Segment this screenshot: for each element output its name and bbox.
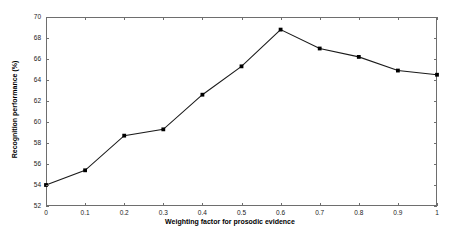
y-tick-label: 62 — [14, 97, 41, 104]
x-tick-label: 0.3 — [148, 209, 178, 216]
y-axis-label: Recognition performance (%) — [11, 40, 18, 180]
y-tick-mark — [46, 185, 49, 186]
y-tick-label: 58 — [14, 139, 41, 146]
y-tick-mark — [434, 80, 437, 81]
x-tick-mark — [437, 203, 438, 206]
x-tick-label: 0 — [31, 209, 61, 216]
x-tick-mark — [320, 17, 321, 20]
x-tick-mark — [163, 17, 164, 20]
x-tick-mark — [124, 17, 125, 20]
x-tick-mark — [85, 17, 86, 20]
x-tick-mark — [359, 17, 360, 20]
chart-figure: 52545658606264666870 00.10.20.30.40.50.6… — [0, 0, 460, 236]
x-tick-mark — [359, 203, 360, 206]
y-tick-mark — [46, 164, 49, 165]
y-tick-label: 64 — [14, 76, 41, 83]
x-tick-label: 0.9 — [383, 209, 413, 216]
x-tick-mark — [398, 203, 399, 206]
x-tick-label: 0.6 — [266, 209, 296, 216]
plot-area — [46, 17, 437, 206]
x-tick-mark — [46, 17, 47, 20]
y-tick-mark — [46, 38, 49, 39]
x-tick-mark — [163, 203, 164, 206]
x-tick-label: 0.5 — [227, 209, 257, 216]
x-tick-label: 1 — [422, 209, 452, 216]
y-tick-label: 56 — [14, 160, 41, 167]
x-tick-mark — [124, 203, 125, 206]
y-tick-mark — [434, 143, 437, 144]
x-tick-mark — [320, 203, 321, 206]
y-tick-mark — [46, 80, 49, 81]
y-tick-mark — [434, 59, 437, 60]
y-tick-mark — [434, 185, 437, 186]
y-tick-mark — [46, 59, 49, 60]
y-tick-label: 60 — [14, 118, 41, 125]
x-tick-label: 0.8 — [344, 209, 374, 216]
x-tick-mark — [46, 203, 47, 206]
x-tick-mark — [85, 203, 86, 206]
x-tick-mark — [202, 17, 203, 20]
x-tick-mark — [202, 203, 203, 206]
y-tick-mark — [434, 206, 437, 207]
y-tick-mark — [46, 101, 49, 102]
y-tick-label: 54 — [14, 181, 41, 188]
y-tick-mark — [434, 164, 437, 165]
x-tick-mark — [281, 17, 282, 20]
x-tick-label: 0.1 — [70, 209, 100, 216]
x-tick-mark — [281, 203, 282, 206]
x-tick-label: 0.7 — [305, 209, 335, 216]
y-tick-mark — [434, 101, 437, 102]
y-tick-mark — [46, 122, 49, 123]
y-tick-mark — [46, 143, 49, 144]
x-tick-label: 0.4 — [187, 209, 217, 216]
x-tick-mark — [437, 17, 438, 20]
y-tick-label: 70 — [14, 13, 41, 20]
y-tick-mark — [434, 38, 437, 39]
x-tick-mark — [242, 203, 243, 206]
y-tick-label: 52 — [14, 202, 41, 209]
x-axis-label: Weighting factor for prosodic evidence — [0, 218, 460, 225]
y-tick-mark — [46, 206, 49, 207]
y-tick-label: 68 — [14, 34, 41, 41]
y-tick-mark — [434, 122, 437, 123]
x-tick-mark — [242, 17, 243, 20]
x-tick-mark — [398, 17, 399, 20]
x-tick-label: 0.2 — [109, 209, 139, 216]
y-tick-label: 66 — [14, 55, 41, 62]
